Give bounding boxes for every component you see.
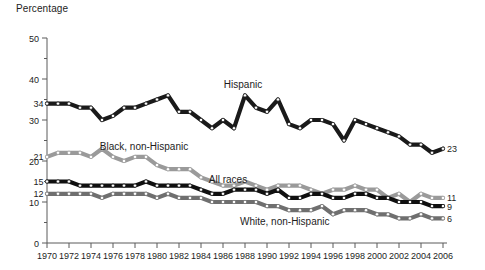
data-point-marker [408, 200, 411, 203]
data-point-marker [287, 196, 290, 199]
data-point-marker [166, 192, 169, 195]
data-point-marker [144, 180, 147, 183]
data-point-marker [265, 110, 268, 113]
data-point-marker [298, 209, 301, 212]
data-point-marker [56, 192, 59, 195]
data-point-marker [419, 143, 422, 146]
data-point-marker [122, 192, 125, 195]
data-point-marker [276, 184, 279, 187]
data-point-marker [408, 143, 411, 146]
x-axis-tick-label: 2006 [433, 251, 453, 261]
data-point-marker [111, 155, 114, 158]
data-point-marker [386, 131, 389, 134]
data-point-marker [210, 192, 213, 195]
series-end-value-label: 23 [447, 144, 457, 154]
x-axis-tick-label: 1976 [103, 251, 123, 261]
x-axis-tick-label: 1972 [59, 251, 79, 261]
series-name-annotation: All races [209, 174, 247, 185]
data-point-marker [342, 196, 345, 199]
data-point-marker [177, 184, 180, 187]
data-point-marker [364, 188, 367, 191]
data-point-marker [122, 106, 125, 109]
data-point-marker [309, 118, 312, 121]
x-axis-tick-label: 2004 [411, 251, 431, 261]
data-point-marker [342, 209, 345, 212]
data-point-marker [430, 217, 433, 220]
data-point-marker [67, 180, 70, 183]
data-point-marker [375, 188, 378, 191]
data-point-marker [122, 184, 125, 187]
series-name-annotation: Black, non-Hispanic [100, 141, 188, 152]
data-point-marker [56, 180, 59, 183]
data-point-marker [419, 192, 422, 195]
data-point-marker [221, 192, 224, 195]
data-point-marker [155, 184, 158, 187]
data-point-marker [78, 106, 81, 109]
data-point-marker [265, 192, 268, 195]
series-start-value-label: 34 [33, 99, 43, 109]
data-point-marker [320, 118, 323, 121]
data-point-marker [276, 98, 279, 101]
series-name-annotation: Hispanic [224, 79, 262, 90]
data-point-marker [419, 213, 422, 216]
y-axis-tick-label: 40 [29, 75, 39, 85]
series-layer [45, 94, 444, 220]
data-point-marker [430, 196, 433, 199]
data-point-marker [166, 184, 169, 187]
data-point-marker [254, 184, 257, 187]
data-point-marker [89, 192, 92, 195]
data-point-marker [265, 204, 268, 207]
series-end-value-label: 6 [447, 214, 452, 224]
data-point-marker [320, 204, 323, 207]
data-point-marker [375, 196, 378, 199]
data-point-marker [342, 139, 345, 142]
data-point-marker [254, 106, 257, 109]
data-point-marker [199, 118, 202, 121]
x-axis: 1970197219741976197819801982198419861988… [37, 243, 453, 261]
data-point-marker [243, 94, 246, 97]
data-point-marker [397, 192, 400, 195]
data-point-marker [133, 184, 136, 187]
x-axis-tick-label: 2002 [389, 251, 409, 261]
data-point-marker [133, 192, 136, 195]
data-point-marker [111, 192, 114, 195]
x-axis-tick-label: 1980 [147, 251, 167, 261]
data-point-marker [265, 188, 268, 191]
x-axis-tick-label: 1982 [169, 251, 189, 261]
data-point-marker [111, 184, 114, 187]
data-point-marker [232, 200, 235, 203]
data-point-marker [298, 184, 301, 187]
y-axis: 01020304050 [29, 34, 47, 249]
data-point-marker [375, 127, 378, 130]
data-point-marker [441, 147, 444, 150]
series-start-value-label: 21 [33, 152, 43, 162]
data-point-marker [232, 127, 235, 130]
data-point-marker [276, 188, 279, 191]
data-point-marker [67, 151, 70, 154]
data-point-marker [430, 204, 433, 207]
data-point-marker [210, 200, 213, 203]
data-point-marker [331, 213, 334, 216]
data-point-marker [331, 196, 334, 199]
x-axis-tick-label: 1996 [323, 251, 343, 261]
data-point-marker [210, 127, 213, 130]
data-point-marker [221, 118, 224, 121]
data-point-marker [188, 168, 191, 171]
x-axis-tick-label: 1988 [235, 251, 255, 261]
data-point-marker [177, 168, 180, 171]
data-point-marker [45, 180, 48, 183]
data-point-marker [56, 151, 59, 154]
data-point-marker [386, 196, 389, 199]
x-axis-tick-label: 1998 [345, 251, 365, 261]
data-point-marker [298, 196, 301, 199]
x-axis-tick-label: 1986 [213, 251, 233, 261]
data-point-marker [331, 188, 334, 191]
data-point-marker [441, 204, 444, 207]
data-point-marker [353, 184, 356, 187]
data-point-marker [342, 188, 345, 191]
data-point-marker [353, 118, 356, 121]
data-point-marker [364, 192, 367, 195]
data-point-marker [309, 188, 312, 191]
data-point-marker [144, 102, 147, 105]
data-point-marker [353, 209, 356, 212]
